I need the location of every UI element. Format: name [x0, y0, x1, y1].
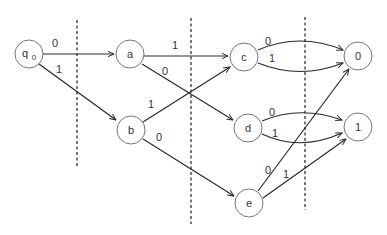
edge-c-out0-1: 1	[258, 52, 343, 72]
node-label: c	[241, 51, 247, 63]
edge-a-c: 1	[144, 39, 228, 56]
edge-label: 0	[156, 131, 162, 143]
edge-q0-a: 0	[43, 37, 114, 54]
edge-a-d: 0	[142, 64, 233, 120]
node-subscript: 0	[32, 53, 37, 62]
edge-label: 0	[52, 37, 58, 49]
node-label: b	[128, 124, 134, 136]
edge-label: 1	[283, 168, 289, 180]
node-output-1: 1	[344, 113, 372, 141]
edge-b-e: 0	[143, 131, 234, 196]
node-label: 0	[355, 50, 361, 62]
node-label: d	[245, 122, 251, 134]
edge-label: 0	[265, 164, 271, 176]
edge-label: 1	[272, 127, 278, 139]
node-e: e	[235, 189, 263, 217]
node-b: b	[117, 116, 145, 144]
node-label: q	[22, 47, 28, 59]
edge-label: 1	[148, 98, 154, 110]
node-label: e	[246, 197, 252, 209]
edge-d-out1-0: 0	[262, 106, 342, 121]
edge-label: 1	[269, 52, 275, 64]
edge-b-c: 1	[143, 67, 230, 122]
state-diagram: 0 1 1 0 1 0 0 1 0 1 0 1	[0, 0, 387, 235]
edge-label: 1	[56, 63, 62, 75]
node-label: 1	[355, 121, 361, 133]
node-c: c	[230, 43, 258, 71]
edge-label: 0	[162, 65, 168, 77]
edge-label: 1	[172, 39, 178, 51]
node-output-0: 0	[344, 42, 372, 70]
edge-d-out1-1: 1	[262, 127, 342, 143]
node-d: d	[234, 114, 262, 142]
edge-label: 0	[265, 35, 271, 47]
node-q0: q 0	[15, 40, 43, 68]
node-label: a	[127, 48, 134, 60]
edge-c-out0-0: 0	[258, 35, 343, 50]
node-a: a	[116, 40, 144, 68]
edge-label: 0	[269, 106, 275, 118]
